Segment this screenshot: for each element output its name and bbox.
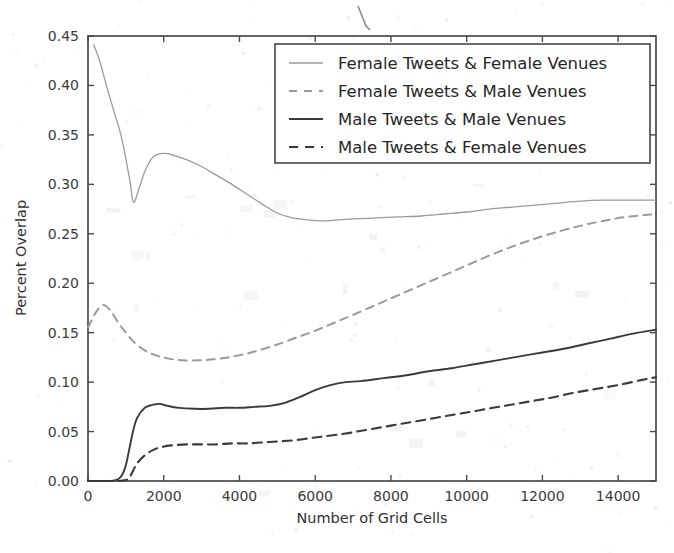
noise-speck	[668, 381, 670, 383]
noise-smudge	[106, 208, 120, 213]
noise-speck	[562, 428, 566, 432]
x-tick-label: 0	[84, 488, 93, 504]
noise-smudge	[575, 291, 589, 298]
noise-speck	[541, 537, 542, 538]
noise-speck	[309, 37, 312, 40]
legend-label-2: Male Tweets & Male Venues	[338, 110, 566, 129]
noise-speck	[118, 25, 120, 27]
noise-speck	[34, 63, 38, 67]
noise-speck	[281, 325, 283, 327]
noise-speck	[357, 466, 360, 469]
noise-speck	[294, 528, 297, 531]
noise-speck	[155, 299, 157, 301]
legend-label-3: Male Tweets & Female Venues	[338, 138, 587, 157]
noise-speck	[590, 466, 594, 470]
noise-speck	[398, 475, 401, 478]
noise-smudge	[244, 291, 257, 300]
noise-speck	[644, 190, 646, 192]
noise-speck	[230, 168, 233, 171]
x-axis-title: Number of Grid Cells	[296, 510, 447, 526]
noise-speck	[147, 74, 149, 76]
noise-speck	[472, 361, 474, 363]
noise-speck	[247, 185, 250, 188]
noise-speck	[427, 244, 429, 246]
noise-speck	[321, 174, 323, 176]
noise-speck	[287, 494, 289, 496]
noise-speck	[318, 324, 321, 327]
noise-speck	[298, 228, 301, 231]
noise-speck	[395, 337, 397, 339]
noise-speck	[538, 242, 541, 245]
noise-smudge	[259, 491, 270, 496]
noise-smudge	[146, 252, 150, 261]
x-tick-label: 14000	[596, 488, 641, 504]
noise-speck	[569, 337, 572, 340]
y-tick-label: 0.40	[48, 77, 79, 93]
percent-overlap-line-chart: 02000400060008000100001200014000 0.000.0…	[0, 0, 674, 553]
noise-speck	[587, 336, 589, 338]
noise-speck	[313, 427, 315, 429]
noise-smudge	[370, 235, 377, 241]
noise-speck	[379, 206, 382, 209]
noise-speck	[530, 515, 534, 519]
noise-speck	[504, 445, 507, 448]
noise-speck	[532, 356, 534, 358]
noise-speck	[619, 331, 622, 334]
noise-speck	[559, 460, 561, 462]
noise-speck	[252, 194, 256, 198]
noise-speck	[667, 525, 669, 527]
noise-speck	[391, 531, 395, 535]
noise-speck	[242, 52, 245, 55]
noise-speck	[161, 42, 165, 46]
y-tick-label: 0.05	[48, 424, 79, 440]
noise-speck	[503, 253, 506, 256]
noise-speck	[654, 506, 658, 510]
noise-speck	[309, 260, 311, 262]
noise-speck	[641, 2, 645, 6]
noise-speck	[21, 125, 23, 127]
noise-smudge	[131, 250, 144, 258]
noise-speck	[526, 425, 529, 428]
noise-speck	[429, 200, 432, 203]
noise-smudge	[240, 205, 252, 212]
noise-speck	[136, 258, 139, 261]
y-tick-label: 0.10	[48, 374, 79, 390]
noise-speck	[410, 534, 412, 536]
noise-speck	[424, 175, 425, 176]
noise-speck	[646, 195, 649, 198]
noise-speck	[661, 211, 664, 214]
y-tick-label: 0.30	[48, 176, 79, 192]
noise-speck	[35, 482, 37, 484]
noise-speck	[669, 201, 673, 205]
noise-smudge	[546, 325, 554, 328]
noise-speck	[138, 0, 141, 3]
noise-speck	[135, 110, 138, 113]
noise-speck	[668, 286, 670, 288]
noise-speck	[347, 16, 351, 20]
x-tick-label: 10000	[444, 488, 489, 504]
noise-speck	[206, 104, 210, 108]
y-axis-title: Percent Overlap	[13, 200, 29, 316]
noise-speck	[180, 223, 183, 226]
noise-smudge	[553, 282, 559, 289]
noise-speck	[514, 12, 517, 15]
noise-speck	[239, 305, 242, 308]
noise-speck	[273, 166, 277, 170]
noise-smudge	[473, 184, 484, 187]
noise-speck	[81, 228, 84, 231]
x-tick-label: 6000	[297, 488, 333, 504]
noise-speck	[175, 230, 177, 232]
noise-speck	[138, 109, 141, 112]
noise-speck	[187, 127, 188, 128]
chart-figure: 02000400060008000100001200014000 0.000.0…	[0, 0, 674, 553]
x-tick-label: 8000	[373, 488, 409, 504]
noise-speck	[540, 2, 543, 5]
noise-speck	[0, 144, 3, 147]
noise-smudge	[343, 285, 347, 294]
noise-speck	[102, 541, 103, 542]
legend-label-1: Female Tweets & Male Venues	[338, 82, 587, 101]
noise-speck	[497, 245, 501, 249]
y-tick-label: 0.00	[48, 473, 79, 489]
noise-speck	[520, 261, 522, 263]
noise-speck	[396, 15, 399, 18]
